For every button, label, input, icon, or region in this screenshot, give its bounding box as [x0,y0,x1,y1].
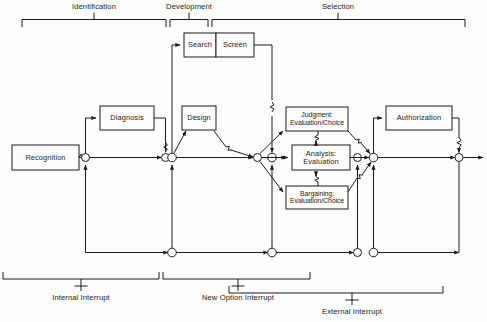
interrupt-label-internal: Internal Interrupt [52,294,110,303]
box-label-judgment: Judgment: Evaluation/Choice [290,111,344,126]
diagram-canvas: Identification Development Selection Rec… [0,0,487,322]
node-c [168,153,177,162]
box-label-search: Search [188,41,212,49]
node-a [82,154,90,162]
box-label-diagnosis: Diagnosis [110,114,143,122]
phase-bracket-development [170,13,208,28]
interrupt-bracket-new-option [163,272,310,291]
bus-node-2 [268,248,277,257]
node-d [254,154,262,162]
phase-label-development: Development [166,3,212,12]
phase-label-selection: Selection [322,3,354,12]
box-label-design: Design [187,114,211,122]
phase-bracket-identification [22,13,166,28]
interrupt-label-external: External Interrupt [322,308,382,317]
box-label-analysis: Analysis: Evaluation [303,149,339,166]
phase-bracket-selection [212,13,465,28]
vertical-squiggle-judgment-analysis [315,131,319,143]
bus-node-3 [354,249,362,257]
vertical-squiggle-analysis-bargaining [315,174,319,186]
node-h [455,154,463,162]
interrupt-label-new-option: New Option Interrupt [202,294,274,303]
interrupt-bracket-internal [3,272,159,291]
feedback-bus [86,162,460,257]
box-label-authorization: Authorization [397,114,441,122]
phase-label-identification: Identification [72,3,116,12]
node-g [369,153,378,162]
bus-node-1 [168,248,177,257]
box-label-screen: Screen [223,41,247,49]
box-label-recognition: Recognition [25,153,65,161]
path-design [174,131,253,157]
path-search-screen [172,45,274,153]
box-label-bargaining: Bargaining: Evaluation/Choice [290,190,344,205]
bus-node-4 [369,248,378,257]
